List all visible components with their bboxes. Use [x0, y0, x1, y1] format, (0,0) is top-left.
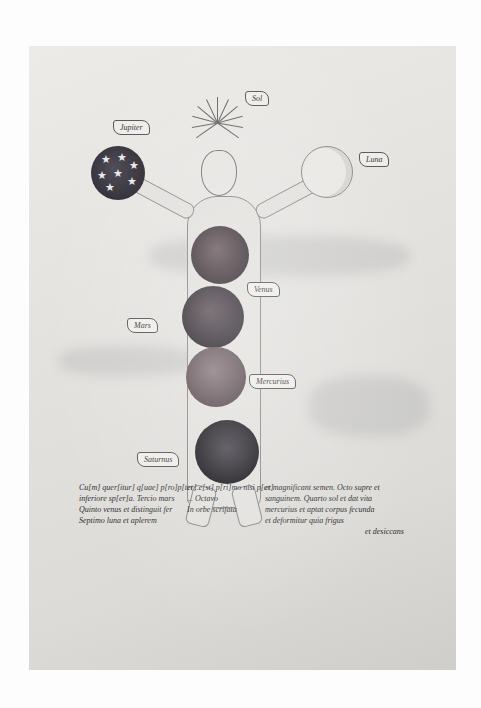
label-mercurius: Mercurius: [249, 374, 296, 389]
text-line: ... Octavo: [187, 493, 237, 504]
label-luna: Luna: [359, 152, 389, 167]
left-foot: [185, 484, 218, 529]
venus-sphere: [191, 226, 249, 284]
text-line: Septimo luna et aplerem: [79, 515, 274, 526]
luna-sphere: [301, 146, 353, 198]
text-line: mercurius et aptat corpus fecunda: [265, 504, 404, 515]
text-line: Quinto venus et distinguit fer: [79, 504, 274, 515]
stain: [309, 376, 429, 436]
text-line: et ...: [187, 482, 237, 493]
stain: [149, 236, 409, 276]
human-figure-torso: [187, 196, 261, 508]
text-line: inferiore sp[er]a. Tercio mars: [79, 493, 274, 504]
label-sol: Sol: [245, 91, 269, 106]
label-saturnus: Saturnus: [137, 452, 179, 467]
text-line: et deformitur quia frigus: [265, 515, 404, 526]
label-venus: Venus: [247, 282, 280, 297]
jupiter-sphere: ★ ★ ★ ★ ★ ★ ★: [91, 146, 145, 200]
right-foot: [231, 484, 264, 529]
text-line: In orbe scrifata: [187, 504, 237, 515]
label-jupiter: Jupiter: [113, 120, 150, 135]
saturnus-sphere: [195, 420, 259, 484]
text-block-middle: et ... ... Octavo In orbe scrifata: [187, 482, 237, 515]
text-block-left: Cu[m] quer[itur] q[uae] p[ro]p[ter] e[st…: [79, 482, 274, 526]
stain: [59, 346, 199, 376]
text-line: et desiccans: [265, 526, 404, 537]
right-arm: [253, 173, 324, 221]
text-block-right: et magnificant semen. Octo supre et sang…: [265, 482, 404, 537]
mars-sphere: [182, 286, 244, 348]
text-line: et magnificant semen. Octo supre et: [265, 482, 404, 493]
manuscript-page: ★ ★ ★ ★ ★ ★ ★ Jupiter Sol Luna Venus Mar…: [29, 46, 456, 670]
sun-face: [201, 150, 237, 196]
label-mars: Mars: [127, 318, 158, 333]
text-line: Cu[m] quer[itur] q[uae] p[ro]p[ter] e[st…: [79, 482, 274, 493]
left-arm: [126, 173, 197, 221]
mercurius-sphere: [186, 347, 246, 407]
text-line: sanguinem. Quarto sol et dat vita: [265, 493, 404, 504]
